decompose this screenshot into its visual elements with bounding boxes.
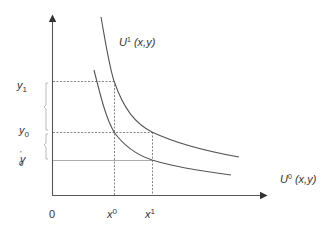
origin-label: 0	[49, 208, 55, 220]
bracket-y0-y0prime	[44, 134, 48, 159]
x0-label: x0	[106, 207, 118, 220]
u1-curve-label: U1 (x,y)	[119, 36, 156, 48]
indifference-curve-diagram: y1 y0 y'0 0 x0 x1 U1 (x,y) U0 (x,y)	[0, 0, 323, 231]
x1-label: x1	[144, 207, 156, 220]
u0-curve-label: U0 (x,y)	[280, 173, 317, 185]
y0-label: y0	[18, 124, 30, 139]
y0-prime-label: y'0	[19, 149, 27, 168]
y1-label: y1	[16, 79, 28, 94]
bracket-y1-y0	[44, 83, 48, 130]
